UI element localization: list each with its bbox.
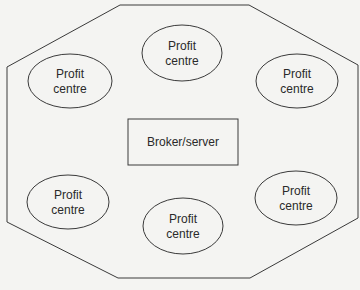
profit-centre-bottom-right: Profit centre	[255, 171, 337, 225]
node-label-line1: Profit	[168, 39, 197, 53]
node-label-line1: Profit	[169, 212, 198, 226]
node-label-line2: centre	[165, 54, 199, 68]
node-label-line2: centre	[279, 199, 313, 213]
profit-centre-top-right: Profit centre	[256, 54, 338, 108]
profit-centre-bottom-center: Profit centre	[143, 198, 223, 254]
node-label-line1: Profit	[56, 67, 85, 81]
node-label-line2: centre	[51, 203, 85, 217]
node-label-line1: Profit	[282, 184, 311, 198]
profit-centre-top-left: Profit centre	[28, 54, 112, 108]
node-label-line2: centre	[166, 227, 200, 241]
node-label-line2: centre	[53, 82, 87, 96]
profit-centre-top-center: Profit centre	[142, 25, 222, 81]
profit-centre-bottom-left: Profit centre	[27, 175, 109, 229]
broker-server-box: Broker/server	[128, 119, 238, 165]
node-label-line1: Profit	[283, 67, 312, 81]
node-label-line2: centre	[280, 82, 314, 96]
broker-server-label: Broker/server	[147, 135, 219, 149]
diagram-canvas: Profit centre Profit centre Profit centr…	[0, 0, 360, 290]
node-label-line1: Profit	[54, 188, 83, 202]
